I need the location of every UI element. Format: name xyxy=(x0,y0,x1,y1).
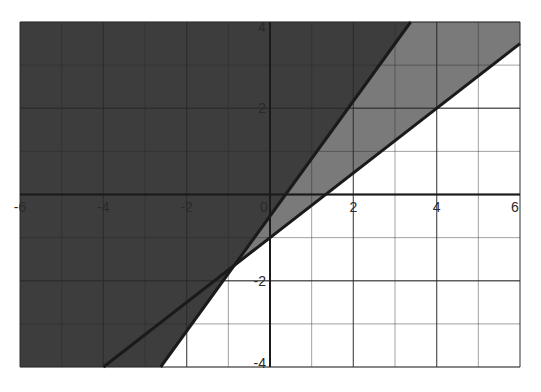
x-tick-label: -2 xyxy=(180,199,193,215)
inequality-graph: -6-4-2024642-2-4 xyxy=(0,0,541,392)
y-tick-label: 4 xyxy=(258,19,266,35)
x-tick-label: 0 xyxy=(260,199,268,215)
y-tick-label: -4 xyxy=(254,355,267,371)
x-tick-label: 2 xyxy=(349,199,357,215)
x-tick-label: 6 xyxy=(511,199,519,215)
y-tick-label: -2 xyxy=(254,273,267,289)
y-tick-label: 2 xyxy=(258,100,266,116)
x-tick-label: -4 xyxy=(97,199,110,215)
plot-area: -6-4-2024642-2-4 xyxy=(14,19,520,371)
x-tick-label: 4 xyxy=(433,199,441,215)
x-tick-label: -6 xyxy=(14,199,27,215)
